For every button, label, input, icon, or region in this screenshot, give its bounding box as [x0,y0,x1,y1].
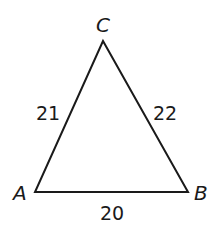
side-label-ac: 21 [36,102,60,124]
vertex-label-a: A [11,181,27,205]
triangle-diagram: C A B 21 22 20 [0,0,222,234]
vertex-label-b: B [194,181,208,205]
vertex-label-c: C [96,13,110,37]
side-label-bc: 22 [153,102,177,124]
side-label-ab: 20 [100,202,124,224]
